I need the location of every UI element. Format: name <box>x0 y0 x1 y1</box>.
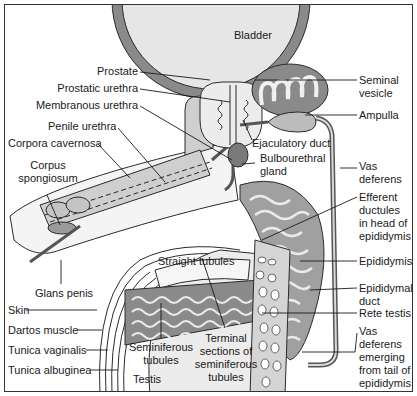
label-vas-deferens-line2: deferens <box>359 173 402 186</box>
label-membranous-urethra: Membranous urethra <box>20 99 138 112</box>
label-seminal-vesicle-line1: Seminal <box>359 74 399 87</box>
label-skin: Skin <box>8 304 29 317</box>
label-tunica-vaginalis: Tunica vaginalis <box>8 344 86 357</box>
label-terminal-sections-line4: tubules <box>196 371 256 384</box>
label-vas-emerging-line2: deferens <box>359 338 402 351</box>
label-vas-emerging-line3: emerging <box>359 351 405 364</box>
anatomy-diagram: Bladder Prostate Prostatic urethra Membr… <box>0 0 417 396</box>
label-vas-deferens-line1: Vas <box>359 160 377 173</box>
label-efferent-ductules-line4: epididymis <box>359 230 411 243</box>
label-corpus-spongiosum-line2: spongiosum <box>12 172 84 185</box>
label-vas-emerging-line4: from tail of <box>359 364 410 377</box>
label-terminal-sections-line3: seminiferous <box>190 358 262 371</box>
label-vas-emerging-line5: epididymis <box>359 377 411 390</box>
label-glans-penis: Glans penis <box>35 287 93 300</box>
label-ejaculatory-duct: Ejaculatory duct <box>252 137 330 150</box>
label-dartos-muscle: Dartos muscle <box>8 324 78 337</box>
label-terminal-sections-line2: sections of <box>190 345 262 358</box>
label-bladder: Bladder <box>234 29 272 42</box>
label-bulbourethral-gland-line2: gland <box>260 165 287 178</box>
label-tunica-albuginea: Tunica albuginea <box>8 364 91 377</box>
label-efferent-ductules-line3: in head of <box>359 217 407 230</box>
label-efferent-ductules-line1: Efferent <box>359 191 397 204</box>
label-corpus-spongiosum-line1: Corpus <box>18 159 78 172</box>
label-epididymis: Epididymis <box>359 255 412 268</box>
label-seminiferous-tubules-line2: tubules <box>127 354 195 367</box>
label-efferent-ductules-line2: ductules <box>359 204 400 217</box>
label-testis: Testis <box>133 373 161 386</box>
label-vas-emerging-line1: Vas <box>359 325 377 338</box>
label-straight-tubules: Straight tubules <box>158 255 234 268</box>
label-corpora-cavernosa: Corpora cavernosa <box>8 137 102 150</box>
label-ampulla: Ampulla <box>359 109 399 122</box>
label-seminal-vesicle-line2: vesicle <box>359 87 393 100</box>
label-rete-testis: Rete testis <box>359 307 411 320</box>
label-prostatic-urethra: Prostatic urethra <box>20 82 138 95</box>
label-seminiferous-tubules-line1: Seminiferous <box>127 341 195 354</box>
label-prostate: Prostate <box>40 65 138 78</box>
label-penile-urethra: Penile urethra <box>48 120 117 133</box>
label-terminal-sections-line1: Terminal <box>196 332 256 345</box>
seminal-vesicle-shape <box>252 64 328 116</box>
label-bulbourethral-gland-line1: Bulbourethral <box>260 152 325 165</box>
label-epididymal-duct-line1: Epididymal <box>359 282 413 295</box>
